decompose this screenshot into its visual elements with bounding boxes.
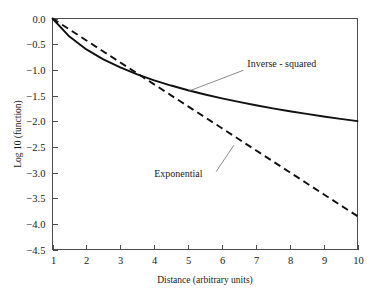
x-axis-tick-marks <box>54 245 359 250</box>
y-tick-label: −1.0 <box>26 65 45 76</box>
y-axis-tick-marks <box>53 20 58 251</box>
inverse-squared-leader-line <box>188 70 243 91</box>
y-tick-label: −4.0 <box>26 219 45 230</box>
series-inverse-squared-line <box>53 19 358 122</box>
x-tick-label: 9 <box>322 255 327 266</box>
y-tick-label: 0.0 <box>32 14 45 25</box>
y-axis-title: Log 10 (function) <box>13 100 24 168</box>
x-tick-label: 6 <box>220 255 225 266</box>
x-tick-label: 5 <box>186 255 191 266</box>
series-label-inverse-squared: Inverse - squared <box>247 58 316 69</box>
y-tick-label: −2.0 <box>26 116 45 127</box>
line-chart: 0.0−0.5−1.0−1.5−2.0−2.5−3.0−3.5−4.0−4.5 … <box>0 0 384 295</box>
x-tick-label: 4 <box>152 255 158 266</box>
y-tick-label: −2.5 <box>26 142 45 153</box>
plot-frame <box>53 19 358 250</box>
x-axis-tick-labels: 12345678910 <box>51 255 364 266</box>
x-tick-label: 7 <box>254 255 259 266</box>
chart-figure: 0.0−0.5−1.0−1.5−2.0−2.5−3.0−3.5−4.0−4.5 … <box>0 0 384 295</box>
y-tick-label: −1.5 <box>26 91 45 102</box>
series-label-exponential: Exponential <box>154 168 203 179</box>
x-tick-label: 10 <box>353 255 364 266</box>
x-axis-title: Distance (arbitrary units) <box>157 275 253 286</box>
y-tick-label: −3.0 <box>26 168 45 179</box>
x-tick-label: 3 <box>118 255 123 266</box>
exponential-leader-line <box>216 145 234 171</box>
x-tick-label: 8 <box>288 255 293 266</box>
y-tick-label: −4.5 <box>26 245 45 256</box>
y-axis-tick-labels: 0.0−0.5−1.0−1.5−2.0−2.5−3.0−3.5−4.0−4.5 <box>26 14 45 256</box>
x-tick-label: 1 <box>51 255 56 266</box>
y-tick-label: −3.5 <box>26 193 45 204</box>
x-tick-label: 2 <box>84 255 89 266</box>
series-exponential-line <box>53 19 358 217</box>
y-tick-label: −0.5 <box>26 39 45 50</box>
